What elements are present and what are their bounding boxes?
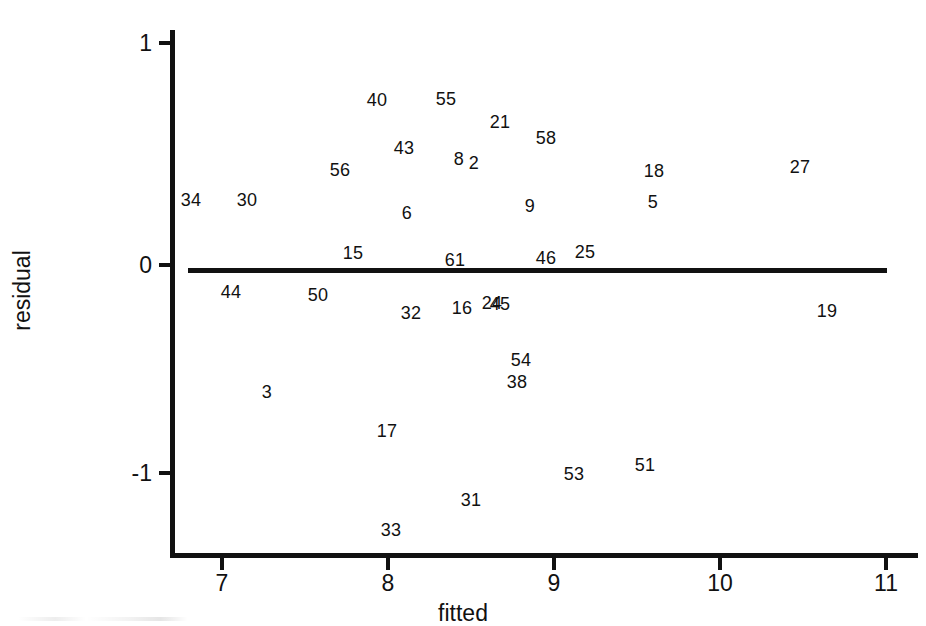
data-point-label: 21 xyxy=(490,113,511,131)
data-point-label: 6 xyxy=(402,204,412,222)
data-point-label: 43 xyxy=(394,139,415,157)
data-point-label: 50 xyxy=(308,286,329,304)
x-axis-title: fitted xyxy=(0,600,926,626)
data-point-label: 15 xyxy=(343,244,364,262)
data-point-label: 46 xyxy=(536,249,557,267)
data-point-label: 30 xyxy=(237,191,258,209)
data-point-label: 19 xyxy=(817,302,838,320)
y-axis-line xyxy=(170,30,175,558)
x-tick-mark xyxy=(552,558,556,570)
data-point-label: 17 xyxy=(377,422,398,440)
data-point-label: 38 xyxy=(507,373,528,391)
y-tick-mark xyxy=(159,263,171,267)
y-tick-label: 1 xyxy=(139,32,152,55)
x-tick-label: 10 xyxy=(707,572,733,595)
data-point-label: 40 xyxy=(367,91,388,109)
x-tick-label: 11 xyxy=(874,572,898,595)
data-point-label: 9 xyxy=(525,197,535,215)
x-tick-mark xyxy=(220,558,224,570)
data-point-label: 55 xyxy=(436,90,457,108)
data-point-label: 61 xyxy=(445,251,466,269)
data-point-label: 31 xyxy=(461,491,482,509)
x-tick-label: 9 xyxy=(548,572,561,595)
residual-plot-figure: 10-1 7891011 343056404365582219581852715… xyxy=(0,0,926,626)
y-tick-label: 0 xyxy=(139,254,152,277)
y-axis-title: residual xyxy=(9,231,36,351)
data-point-label: 54 xyxy=(511,351,532,369)
data-point-label: 2 xyxy=(469,154,479,172)
x-axis-line xyxy=(170,553,918,558)
y-tick-mark xyxy=(159,41,171,45)
data-point-label: 53 xyxy=(564,465,585,483)
x-tick-mark xyxy=(718,558,722,570)
zero-reference-line xyxy=(188,268,887,273)
x-tick-mark xyxy=(386,558,390,570)
data-point-label: 18 xyxy=(644,162,665,180)
y-tick-label: -1 xyxy=(132,462,152,485)
data-point-label: 44 xyxy=(221,283,242,301)
data-point-label: 33 xyxy=(381,521,402,539)
data-point-label: 56 xyxy=(330,161,351,179)
data-point-label: 3 xyxy=(262,383,272,401)
data-point-label: 16 xyxy=(452,299,473,317)
data-point-label: 5 xyxy=(648,193,658,211)
data-point-label: 25 xyxy=(575,243,596,261)
data-point-label: 27 xyxy=(790,158,811,176)
x-tick-label: 7 xyxy=(216,572,229,595)
y-tick-mark xyxy=(159,471,171,475)
data-point-label: 32 xyxy=(401,304,422,322)
data-point-label: 45 xyxy=(490,295,511,313)
x-tick-mark xyxy=(884,558,888,570)
data-point-label: 51 xyxy=(635,456,656,474)
data-point-label: 8 xyxy=(454,150,464,168)
scan-artifact xyxy=(18,617,188,621)
data-point-label: 34 xyxy=(181,191,202,209)
x-tick-label: 8 xyxy=(382,572,395,595)
data-point-label: 58 xyxy=(536,129,557,147)
